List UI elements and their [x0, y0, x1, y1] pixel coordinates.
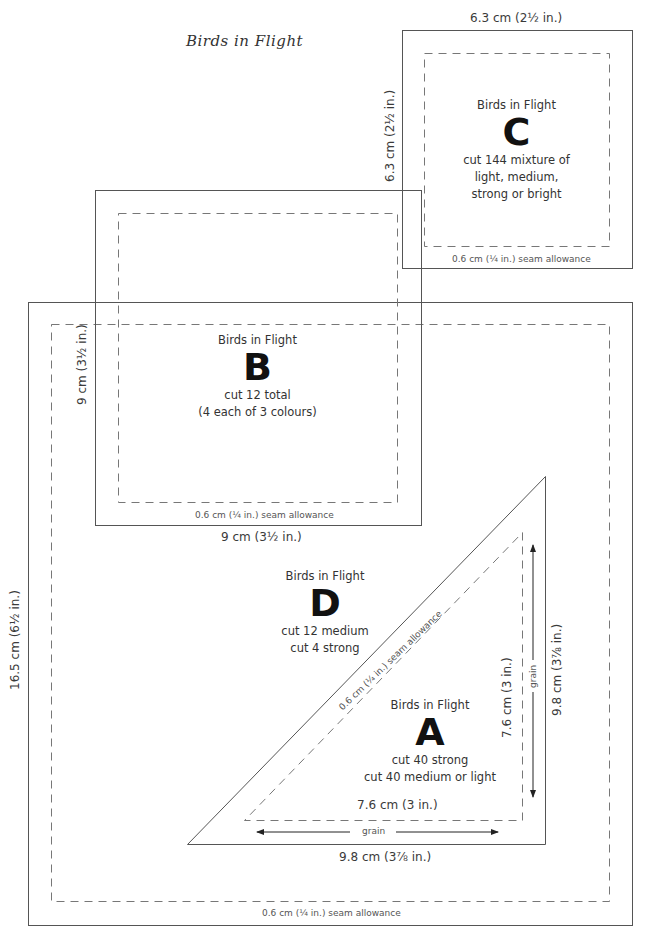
piece-b-label: Birds in Flight B cut 12 total (4 each o… [118, 333, 397, 421]
piece-d-line-1: cut 12 medium [240, 623, 410, 640]
piece-b-line-2: (4 each of 3 colours) [118, 404, 397, 421]
grain-label-horizontal: grain [362, 826, 385, 836]
piece-d-letter: D [240, 583, 410, 623]
piece-a-inner-width-label: 7.6 cm (3 in.) [357, 798, 438, 812]
piece-c-line-3: strong or bright [424, 186, 609, 203]
piece-a-outer-width-label: 9.8 cm (3⅞ in.) [339, 850, 431, 864]
piece-d-seam-label: 0.6 cm (¼ in.) seam allowance [262, 908, 401, 918]
piece-a-outer-height-label: 9.8 cm (3⅞ in.) [550, 624, 564, 716]
piece-d-height-label: 16.5 cm (6½ in.) [8, 590, 22, 690]
piece-a-inner-height-label: 7.6 cm (3 in.) [500, 657, 514, 738]
piece-d-line-2: cut 4 strong [240, 640, 410, 657]
piece-d-label: Birds in Flight D cut 12 medium cut 4 st… [240, 569, 410, 657]
piece-c-label: Birds in Flight C cut 144 mixture of lig… [424, 98, 609, 203]
piece-a-letter: A [355, 712, 505, 752]
piece-b-letter: B [118, 347, 397, 387]
piece-c-height-label: 6.3 cm (2½ in.) [383, 90, 397, 182]
piece-a-line-1: cut 40 strong [355, 752, 505, 769]
piece-c-letter: C [424, 112, 609, 152]
piece-a-label: Birds in Flight A cut 40 strong cut 40 m… [355, 698, 505, 786]
piece-b-line-1: cut 12 total [118, 387, 397, 404]
quilt-template-sheet: Birds in Flight 6.3 cm (2½ in.) 6.3 cm (… [0, 0, 650, 932]
piece-a-line-2: cut 40 medium or light [355, 769, 505, 786]
piece-c-seam-label: 0.6 cm (¼ in.) seam allowance [452, 254, 591, 264]
grain-label-vertical: grain [528, 665, 538, 688]
piece-c-line-2: light, medium, [424, 169, 609, 186]
piece-b-width-label: 9 cm (3½ in.) [221, 530, 302, 544]
piece-c-width-label: 6.3 cm (2½ in.) [470, 11, 562, 25]
page-title: Birds in Flight [186, 32, 303, 50]
piece-c-line-1: cut 144 mixture of [424, 152, 609, 169]
piece-b-seam-label: 0.6 cm (¼ in.) seam allowance [195, 510, 334, 520]
piece-b-height-label: 9 cm (3½ in.) [75, 324, 89, 405]
